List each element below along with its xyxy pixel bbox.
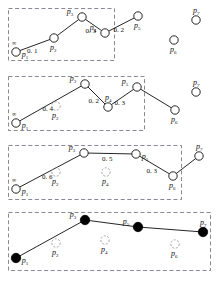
edge-weight-p3-p4-stage-2: 0. 2 bbox=[89, 98, 100, 105]
node-p2-ghost[interactable] bbox=[52, 239, 60, 247]
node-label-p5-stage-3: p5 bbox=[142, 153, 148, 161]
node-label-p1-stage-3: p1 bbox=[22, 188, 28, 196]
node-p5[interactable] bbox=[133, 83, 141, 91]
node-p6[interactable] bbox=[171, 106, 179, 114]
edge-p1-p3 bbox=[20, 222, 82, 256]
node-label-p5-stage-4: p5 bbox=[123, 218, 129, 226]
node-p4[interactable] bbox=[104, 103, 112, 111]
node-p6-ghost[interactable] bbox=[171, 240, 179, 248]
node-p2-ghost[interactable] bbox=[52, 102, 60, 110]
node-label-p3-stage-4: p3 bbox=[70, 211, 76, 219]
edge-p6-p7 bbox=[176, 159, 195, 174]
node-p6[interactable] bbox=[170, 36, 178, 44]
edge-p1-p3 bbox=[20, 86, 82, 121]
edge-p1-p3 bbox=[20, 155, 81, 187]
figure-canvas: p1∞p2p3p4p5p6p70. 10. 30. 2p1∞p2p3p4p5p6… bbox=[0, 0, 222, 281]
node-p4-ghost[interactable] bbox=[102, 168, 110, 176]
node-p1-selected[interactable] bbox=[11, 253, 20, 262]
node-p3[interactable] bbox=[80, 149, 88, 157]
diagram-svg bbox=[0, 0, 222, 281]
stage-group-4 bbox=[9, 213, 211, 271]
node-p5[interactable] bbox=[132, 150, 140, 158]
node-label-p6-stage-4: p6 bbox=[171, 250, 177, 258]
node-p3-selected[interactable] bbox=[80, 215, 89, 224]
node-p1[interactable] bbox=[12, 48, 20, 56]
node-p1[interactable] bbox=[12, 185, 20, 193]
edge-weight-p3-p5-stage-3: 0. 5 bbox=[102, 156, 113, 163]
node-label-p3-stage-2: p3 bbox=[70, 75, 76, 83]
node-label-p5-stage-2: p5 bbox=[122, 78, 128, 86]
node-label-p6-stage-1: p6 bbox=[170, 46, 176, 54]
node-label-p7-stage-3: p7 bbox=[196, 143, 202, 151]
node-label-p1-stage-4: p1 bbox=[22, 257, 28, 265]
node-label-p7-stage-4: p7 bbox=[200, 219, 206, 227]
node-label-p7-stage-1: p7 bbox=[193, 7, 199, 15]
node-p7[interactable] bbox=[195, 152, 203, 160]
cost-label-p1-stage-2: ∞ bbox=[12, 111, 16, 117]
cost-label-p1-stage-1: ∞ bbox=[12, 40, 16, 46]
node-p4[interactable] bbox=[101, 29, 109, 37]
node-p3[interactable] bbox=[81, 80, 89, 88]
edge-weight-p4-p5-stage-2: 0. 3 bbox=[115, 100, 126, 107]
node-p5-selected[interactable] bbox=[133, 222, 142, 231]
node-p1[interactable] bbox=[12, 119, 20, 127]
node-label-p4-stage-3: p4 bbox=[102, 178, 108, 186]
edge-weight-p1-p3-stage-2: 0. 4 bbox=[43, 106, 54, 113]
node-label-p3-stage-1: p3 bbox=[67, 8, 73, 16]
edge-weight-p1-p3-stage-3: 0. 6 bbox=[42, 174, 53, 181]
node-p2-ghost[interactable] bbox=[52, 168, 60, 176]
node-label-p2-stage-1: p2 bbox=[50, 44, 56, 52]
edge-weight-p1-p2-stage-1: 0. 1 bbox=[27, 48, 38, 55]
node-label-p5-stage-1: p5 bbox=[134, 22, 140, 30]
node-p7[interactable] bbox=[192, 88, 200, 96]
node-label-p4-stage-4: p4 bbox=[101, 246, 107, 254]
stage-group-3 bbox=[9, 146, 204, 200]
edge-p5-p7 bbox=[142, 227, 199, 231]
selection-box-stage-4 bbox=[9, 213, 211, 271]
edge-weight-p3-p4-stage-1: 0. 3 bbox=[86, 28, 97, 35]
edge-p5-p6 bbox=[141, 89, 172, 108]
edge-p3-p5 bbox=[88, 153, 132, 154]
node-label-p1-stage-2: p1 bbox=[22, 122, 28, 130]
node-label-p2-stage-4: p2 bbox=[52, 249, 58, 257]
node-label-p2-stage-2: p2 bbox=[52, 112, 58, 120]
node-p7[interactable] bbox=[192, 16, 200, 24]
cost-label-p1-stage-3: ∞ bbox=[12, 177, 16, 183]
node-label-p6-stage-2: p6 bbox=[171, 116, 177, 124]
node-label-p6-stage-3: p6 bbox=[169, 182, 175, 190]
node-p2[interactable] bbox=[50, 34, 58, 42]
edge-weight-p5-p6-stage-3: 0. 3 bbox=[147, 168, 158, 175]
edge-p2-p3 bbox=[57, 20, 78, 36]
node-p7-selected[interactable] bbox=[198, 227, 207, 236]
node-p5[interactable] bbox=[134, 12, 142, 20]
node-p6[interactable] bbox=[169, 172, 177, 180]
node-p4-ghost[interactable] bbox=[101, 236, 109, 244]
node-p3[interactable] bbox=[78, 13, 86, 21]
edge-weight-p4-p5-stage-1: 0. 2 bbox=[114, 27, 125, 34]
node-label-p7-stage-2: p7 bbox=[193, 79, 199, 87]
node-label-p4-stage-2: p4 bbox=[105, 94, 111, 102]
node-label-p3-stage-3: p3 bbox=[69, 144, 75, 152]
